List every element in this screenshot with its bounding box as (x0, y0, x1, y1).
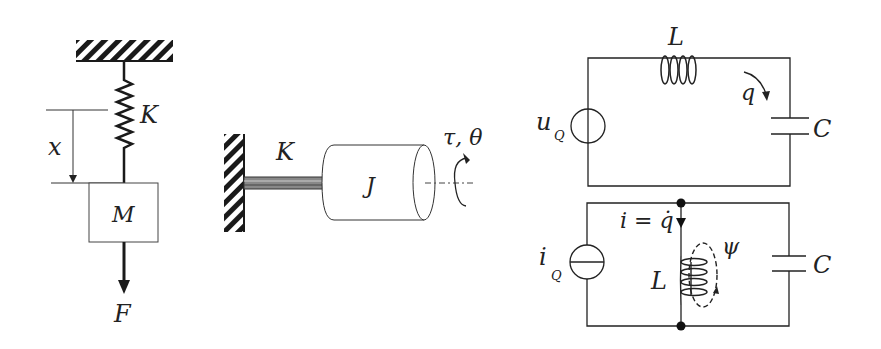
shaft-stiffness-label: K (275, 138, 296, 166)
inductor-label: L (650, 267, 667, 295)
rotation-arrow-icon (455, 158, 468, 206)
charge-label: q (741, 80, 755, 105)
junction-top (677, 199, 686, 208)
current-source-sub: Q (551, 268, 562, 283)
displacement-label: x (48, 133, 62, 161)
flux-label: ψ (722, 234, 740, 259)
series-lc-circuit (571, 56, 809, 186)
wall-hatch (224, 134, 244, 232)
inductor-label: L (667, 23, 684, 51)
spring (117, 61, 132, 183)
current-label: i = q̇ (620, 208, 674, 233)
mass-label: M (111, 202, 135, 227)
torsion-system: K J τ, θ (224, 125, 482, 232)
voltage-source-sub: Q (554, 128, 565, 143)
oscillator-diagram: K x M F K J τ, θ (0, 0, 881, 349)
capacitor (771, 118, 809, 134)
junction-bottom (677, 322, 686, 331)
spring-label: K (139, 101, 160, 129)
force-arrow-icon (118, 280, 130, 294)
capacitor-label: C (813, 115, 831, 143)
voltage-source-label: u (536, 108, 551, 136)
torque-angle-label: τ, θ (443, 125, 482, 150)
capacitor (772, 256, 806, 271)
current-arrow-icon (676, 218, 686, 228)
current-source-label: i (539, 243, 547, 271)
mass-spring-system: K x M F (46, 40, 173, 328)
parallel-lc-circuit (570, 203, 806, 326)
capacitor-label: C (813, 251, 831, 279)
force-label: F (113, 300, 132, 328)
displacement-arrow-icon (69, 175, 77, 183)
ceiling-hatch (76, 40, 173, 61)
torsion-shaft (244, 177, 323, 189)
inductor-coil (656, 56, 700, 84)
inertia-cylinder (322, 145, 435, 220)
